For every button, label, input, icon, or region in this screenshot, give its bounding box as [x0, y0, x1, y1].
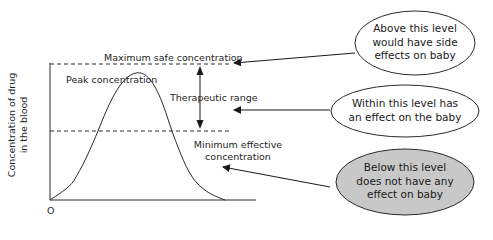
max-safe-label: Maximum safe concentration: [104, 52, 243, 64]
callout-above-line1: Above this level: [355, 22, 475, 36]
callout-above-line3: effects on baby: [355, 49, 475, 63]
y-axis-label-line2: in the blood: [18, 50, 30, 200]
callout-below-line2: does not have any: [336, 175, 474, 189]
callout-above-line2: would have side: [355, 36, 475, 50]
arrow-above: [234, 53, 355, 63]
therapeutic-range-label: Therapeutic range: [170, 92, 258, 104]
callout-below-line3: effect on baby: [336, 188, 474, 202]
peak-label: Peak concentration: [66, 74, 157, 86]
min-effective-label-line1: Minimum effective: [188, 139, 288, 151]
callout-above-text: Above this level would have side effects…: [355, 22, 475, 63]
callout-below-text: Below this level does not have any effec…: [336, 161, 474, 202]
callout-within-line2: an effect on the baby: [331, 111, 479, 125]
min-effective-label-line2: concentration: [188, 151, 288, 163]
y-axis-label-line1: Concentration of drug: [6, 50, 18, 200]
arrowhead-down: [197, 120, 204, 129]
callout-within-text: Within this level has an effect on the b…: [331, 97, 479, 124]
y-axis-label: Concentration of drug in the blood: [6, 50, 30, 200]
callout-below-line1: Below this level: [336, 161, 474, 175]
arrowhead-up: [197, 66, 204, 75]
min-effective-label: Minimum effective concentration: [188, 139, 288, 163]
arrow-below: [223, 167, 330, 187]
origin-label: O: [47, 205, 54, 217]
callout-within-line1: Within this level has: [331, 97, 479, 111]
